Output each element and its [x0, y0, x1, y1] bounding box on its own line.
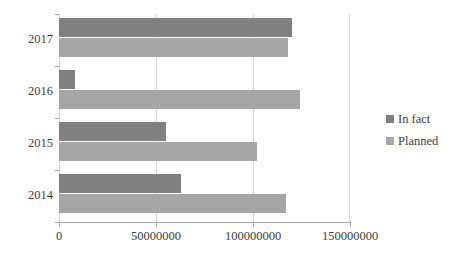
y-axis-labels: 2017 2016 2015 2014 [0, 14, 53, 222]
legend-label-in-fact: In fact [398, 112, 430, 126]
bar-2016-planned [59, 90, 300, 109]
bar-group-2015 [59, 118, 350, 170]
legend-label-planned: Planned [398, 134, 438, 148]
bar-group-2016 [59, 66, 350, 118]
bar-chart: 2017 2016 2015 2014 [0, 0, 460, 264]
y-axis-label-2017: 2017 [3, 32, 53, 46]
y-axis-label-2016: 2016 [3, 84, 53, 98]
x-axis-tick [156, 222, 157, 227]
x-axis-label-100000000: 100000000 [225, 229, 281, 244]
legend-swatch-icon-planned [386, 137, 394, 145]
bar-2017-planned [59, 38, 288, 57]
bar-2015-planned [59, 142, 257, 161]
chart-legend: In fact Planned [386, 110, 460, 154]
x-axis-label-50000000: 50000000 [131, 229, 181, 244]
plot-area [59, 14, 350, 222]
bar-2014-in-fact [59, 174, 181, 193]
x-axis-line [59, 222, 351, 223]
x-axis-tick [253, 222, 254, 227]
legend-item-planned[interactable]: Planned [386, 132, 460, 150]
x-axis-label-0: 0 [56, 229, 62, 244]
bar-2015-in-fact [59, 122, 166, 141]
x-axis-labels: 0 50000000 100000000 150000000 [0, 229, 460, 247]
legend-swatch-icon-in-fact [386, 115, 394, 123]
x-axis-tick [59, 222, 60, 227]
bar-2014-planned [59, 194, 286, 213]
bar-2017-in-fact [59, 18, 292, 37]
x-axis-label-150000000: 150000000 [322, 229, 378, 244]
x-axis-tick [350, 222, 351, 227]
bar-group-2017 [59, 14, 350, 66]
bar-group-2014 [59, 170, 350, 222]
legend-item-in-fact[interactable]: In fact [386, 110, 460, 128]
y-axis-label-2015: 2015 [3, 136, 53, 150]
bar-2016-in-fact [59, 70, 75, 89]
y-axis-label-2014: 2014 [3, 188, 53, 202]
